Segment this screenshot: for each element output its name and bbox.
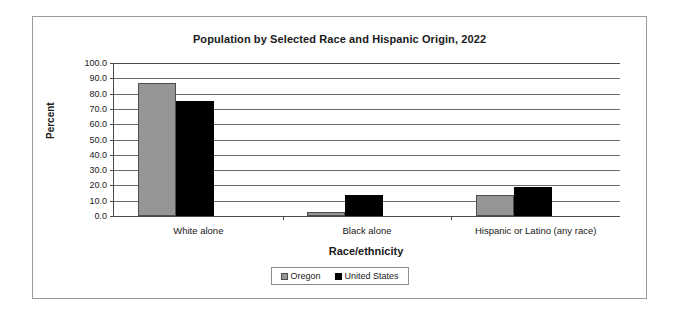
y-axis-tick-label: 80.0 xyxy=(89,89,107,99)
y-axis-tick xyxy=(110,185,114,186)
bar-united-states xyxy=(176,101,214,217)
x-axis-tick-label: Hispanic or Latino (any race) xyxy=(475,225,596,236)
legend-swatch-icon xyxy=(280,273,287,280)
gridline xyxy=(114,94,620,95)
legend-item-united-states: United States xyxy=(335,271,399,281)
bar-united-states xyxy=(514,187,552,216)
legend-label: United States xyxy=(345,271,399,281)
gridline xyxy=(114,63,620,64)
y-axis-tick xyxy=(110,63,114,64)
y-axis-tick-label: 0.0 xyxy=(94,211,107,221)
y-axis-title: Percent xyxy=(45,102,56,139)
gridline xyxy=(114,78,620,79)
y-axis-tick xyxy=(110,201,114,202)
legend-label: Oregon xyxy=(290,271,320,281)
x-axis-tick-label: White alone xyxy=(173,225,223,236)
chart-frame: Population by Selected Race and Hispanic… xyxy=(32,16,647,299)
y-axis-tick-label: 100.0 xyxy=(84,58,107,68)
y-axis-tick-label: 20.0 xyxy=(89,180,107,190)
y-axis-tick-label: 90.0 xyxy=(89,73,107,83)
bar-oregon xyxy=(307,212,345,216)
y-axis-tick-label: 10.0 xyxy=(89,196,107,206)
chart-title: Population by Selected Race and Hispanic… xyxy=(33,33,646,45)
x-axis-separator xyxy=(451,216,452,220)
y-axis-tick xyxy=(110,216,114,217)
chart-legend: OregonUnited States xyxy=(270,267,408,285)
y-axis-tick xyxy=(110,78,114,79)
bar-oregon xyxy=(476,195,514,216)
y-axis-tick-label: 30.0 xyxy=(89,165,107,175)
bar-oregon xyxy=(138,83,176,216)
y-axis-tick xyxy=(110,94,114,95)
y-axis-tick xyxy=(110,155,114,156)
y-axis-tick xyxy=(110,124,114,125)
plot-area: 0.010.020.030.040.050.060.070.080.090.01… xyxy=(113,63,620,217)
y-axis-tick-label: 50.0 xyxy=(89,135,107,145)
bar-united-states xyxy=(345,195,383,216)
y-axis-tick-label: 40.0 xyxy=(89,150,107,160)
legend-item-oregon: Oregon xyxy=(280,271,320,281)
x-axis-title: Race/ethnicity xyxy=(113,245,619,257)
x-axis-tick-label: Black alone xyxy=(342,225,391,236)
legend-swatch-icon xyxy=(335,273,342,280)
y-axis-tick xyxy=(110,170,114,171)
y-axis-tick xyxy=(110,140,114,141)
x-axis-separator xyxy=(283,216,284,220)
y-axis-tick-label: 60.0 xyxy=(89,119,107,129)
y-axis-tick xyxy=(110,109,114,110)
y-axis-tick-label: 70.0 xyxy=(89,104,107,114)
